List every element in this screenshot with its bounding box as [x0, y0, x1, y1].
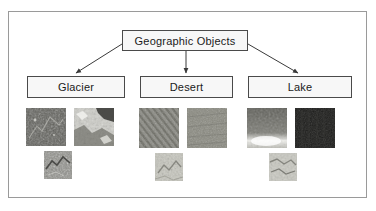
thumbnail-group-glacier	[26, 108, 114, 179]
glacier-thumbnail-2[interactable]	[74, 108, 114, 146]
thumbnail-row-top-glacier	[26, 108, 114, 146]
node-lake[interactable]: Lake	[248, 76, 352, 98]
lake-thumbnail-1[interactable]	[247, 108, 287, 148]
desert-thumbnail-1[interactable]	[139, 108, 179, 148]
thumbnail-row-bottom-glacier	[26, 151, 114, 179]
node-label-lake: Lake	[288, 81, 313, 93]
node-label-desert: Desert	[170, 81, 204, 93]
glacier-thumbnail-1[interactable]	[26, 108, 66, 146]
node-glacier[interactable]: Glacier	[27, 76, 125, 98]
node-label-glacier: Glacier	[58, 81, 94, 93]
thumbnail-group-desert	[139, 108, 227, 181]
node-geographic-objects[interactable]: Geographic Objects	[122, 30, 248, 51]
thumbnail-row-bottom-desert	[139, 153, 227, 181]
desert-thumbnail-2[interactable]	[187, 108, 227, 148]
lake-thumbnail-3[interactable]	[269, 153, 297, 181]
glacier-thumbnail-3[interactable]	[44, 151, 72, 179]
figure-root: Geographic Objects Glacier Desert Lake	[0, 0, 376, 211]
node-label-root: Geographic Objects	[135, 35, 236, 47]
node-desert[interactable]: Desert	[140, 76, 233, 98]
thumbnail-row-bottom-lake	[247, 153, 335, 181]
thumbnail-group-lake	[247, 108, 335, 181]
desert-thumbnail-3[interactable]	[155, 153, 183, 181]
thumbnail-row-top-desert	[139, 108, 227, 148]
thumbnail-row-top-lake	[247, 108, 335, 148]
lake-thumbnail-2[interactable]	[295, 108, 335, 148]
